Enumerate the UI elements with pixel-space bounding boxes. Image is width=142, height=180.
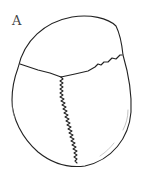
coronal-suture-right — [61, 55, 122, 77]
skull-drawing — [0, 0, 142, 180]
sagittal-suture — [60, 77, 77, 163]
coronal-suture-left — [20, 64, 61, 77]
